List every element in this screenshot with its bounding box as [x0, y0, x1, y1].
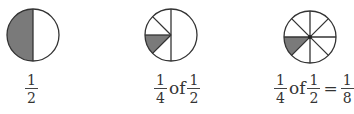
denominator: 4	[274, 89, 287, 105]
denominator: 2	[187, 89, 200, 105]
equals-sign: =	[323, 78, 337, 98]
denominator: 2	[25, 89, 38, 105]
numerator: 1	[187, 73, 200, 88]
fraction: 1 4	[154, 73, 167, 105]
numerator: 1	[274, 73, 287, 88]
denominator: 2	[307, 89, 320, 105]
shaded-eighth	[284, 37, 310, 55]
shaded-half	[7, 9, 33, 61]
fraction: 1 4	[274, 73, 287, 105]
of-word: of	[289, 78, 306, 98]
numerator: 1	[307, 73, 320, 88]
of-word: of	[169, 78, 186, 98]
fraction: 1 2	[25, 73, 38, 105]
caption-quarter-of-half: 1 4 of 1 2	[154, 73, 200, 105]
fraction: 1 2	[307, 73, 320, 105]
numerator: 1	[154, 73, 167, 88]
center-dot	[308, 35, 312, 39]
circle-quarter-of-half	[145, 9, 197, 61]
denominator: 8	[341, 89, 354, 105]
denominator: 4	[154, 89, 167, 105]
shaded-eighth	[145, 35, 171, 53]
caption-half: 1 2	[25, 73, 38, 105]
numerator: 1	[25, 73, 38, 88]
fraction: 1 2	[187, 73, 200, 105]
divider-upper-diagonal	[153, 17, 171, 35]
circle-eighths	[284, 11, 336, 63]
numerator: 1	[341, 73, 354, 88]
caption-eighth: 1 4 of 1 2 = 1 8	[274, 73, 354, 105]
circle-half	[7, 9, 59, 61]
fraction: 1 8	[341, 73, 354, 105]
